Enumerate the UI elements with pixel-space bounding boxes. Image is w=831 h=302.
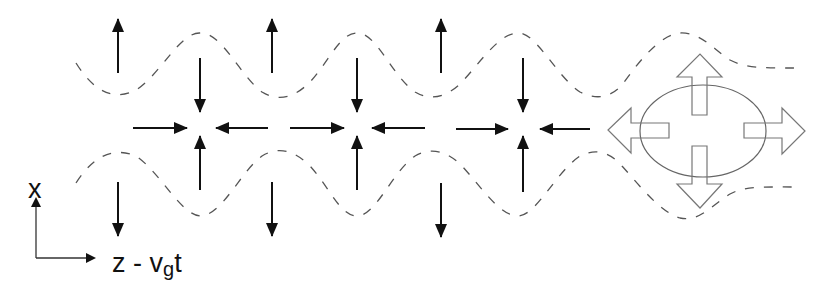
axis-label-x: x xyxy=(28,176,42,203)
hollow-arrow-right xyxy=(744,108,805,154)
bubble-ellipse xyxy=(640,85,766,177)
axis-label-subscript: g xyxy=(163,258,174,280)
axis-label-suffix: t xyxy=(174,248,182,278)
axis-label-z-prefix: z - v xyxy=(112,248,163,278)
axis-label-z-minus-vgt: z - vgt xyxy=(112,250,182,279)
hollow-arrow-left xyxy=(608,108,669,153)
